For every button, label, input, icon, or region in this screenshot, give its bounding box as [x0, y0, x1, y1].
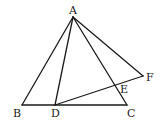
point-label-c: C [127, 107, 135, 120]
point-label-a: A [68, 4, 78, 17]
segment-ac [73, 17, 127, 105]
point-label-b: B [13, 107, 21, 120]
segment-ab [22, 17, 73, 105]
geometry-diagram: ABDCFE [0, 0, 162, 129]
segment-af [73, 17, 143, 76]
point-label-d: D [51, 107, 60, 120]
point-labels: ABDCFE [13, 4, 154, 120]
segment-df [55, 76, 143, 105]
segment-ad [55, 17, 73, 105]
point-label-f: F [146, 71, 154, 84]
point-label-e: E [120, 83, 128, 96]
